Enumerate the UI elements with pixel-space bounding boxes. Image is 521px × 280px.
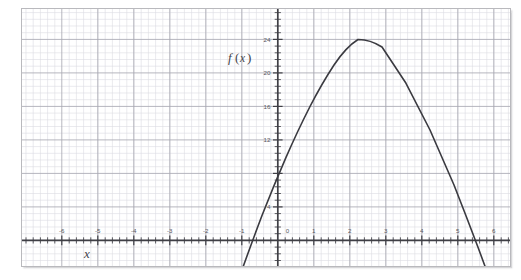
y-axis-label-paren-l: ( [235,50,239,65]
x-axis-label: x [83,246,90,261]
plot-canvas: -6 -5 -4 -3 -2 -1 0 1 2 3 4 5 6 4 12 16 … [22,9,511,267]
y-axis-label: f ( x ) [228,50,251,65]
x-tick-label: 5 [456,227,460,234]
y-axis-label-f: f [228,50,234,65]
plot-frame: -6 -5 -4 -3 -2 -1 0 1 2 3 4 5 6 4 12 16 … [21,8,511,267]
y-axis-label-paren-r: ) [247,50,251,65]
x-tick-label: 4 [420,227,424,234]
y-tick-label: 24 [264,36,271,43]
x-tick-label: 2 [348,227,352,234]
x-tick-label: -5 [95,227,101,234]
y-axis-label-x: x [239,52,246,64]
x-tick-label: 6 [492,227,496,234]
x-tick-label: -6 [59,227,65,234]
y-tick-label: 12 [264,136,271,143]
x-tick-label: -3 [167,227,173,234]
graph-figure: -6 -5 -4 -3 -2 -1 0 1 2 3 4 5 6 4 12 16 … [0,0,521,280]
x-tick-label: 3 [384,227,388,234]
y-tick-label: 20 [264,69,271,76]
y-tick-label: 4 [267,203,271,210]
x-tick-label: -1 [239,227,245,234]
x-tick-label: -2 [203,227,209,234]
y-tick-labels: 4 12 16 20 24 [264,36,271,211]
x-tick-label: 1 [312,227,316,234]
y-tick-label: 16 [264,103,271,110]
x-tick-label: -4 [131,227,137,234]
x-tick-label: 0 [286,227,290,234]
